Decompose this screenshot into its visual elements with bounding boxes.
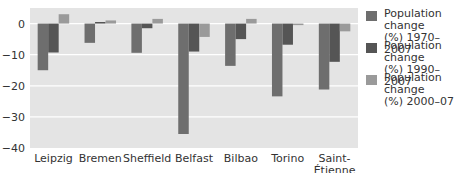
x-tick-label: Étienne [314, 164, 356, 173]
x-tick-label: Belfast [175, 152, 214, 165]
bar [131, 24, 142, 53]
legend-label: Population change [384, 8, 468, 32]
y-tick-label: −10 [2, 49, 25, 62]
bar [152, 19, 163, 24]
bar [142, 24, 153, 29]
bar [329, 24, 340, 62]
legend-swatch-icon [366, 11, 377, 21]
bar [189, 24, 200, 52]
bar [85, 24, 96, 43]
bar [236, 24, 247, 40]
bar [246, 19, 257, 24]
bar [272, 24, 283, 97]
bar [178, 24, 189, 134]
bar [59, 14, 70, 23]
bar [38, 24, 49, 71]
legend-swatch-icon [366, 43, 377, 53]
legend-label: Population change [384, 40, 468, 64]
bar [199, 24, 210, 37]
x-tick-label: Leipzig [34, 152, 73, 165]
y-tick-label: −30 [2, 111, 25, 124]
legend: Population change (%) 1970–2007 Populati… [366, 8, 468, 104]
legend-item-1990-2007: Population change (%) 1990–2007 [366, 40, 468, 72]
x-tick-label: Bremen [79, 152, 122, 165]
legend-label: Population change [384, 72, 468, 96]
x-tick-label: Sheffield [123, 152, 171, 165]
y-tick-label: −40 [2, 142, 25, 155]
legend-label-sub: (%) 2000–07 [384, 96, 468, 108]
y-tick-label: −20 [2, 80, 25, 93]
bar [293, 24, 304, 26]
x-tick-label: Bilbao [224, 152, 258, 165]
bar [48, 24, 59, 53]
legend-item-2000-07: Population change (%) 2000–07 [366, 72, 468, 104]
legend-swatch-icon [366, 75, 377, 85]
x-tick-label: Torino [270, 152, 304, 165]
bar [95, 22, 106, 24]
bar [319, 24, 330, 90]
bar [225, 24, 236, 66]
bar [340, 24, 351, 32]
legend-item-1970-2007: Population change (%) 1970–2007 [366, 8, 468, 40]
bar [106, 20, 117, 23]
y-tick-label: 0 [18, 18, 25, 31]
bar [282, 24, 293, 45]
